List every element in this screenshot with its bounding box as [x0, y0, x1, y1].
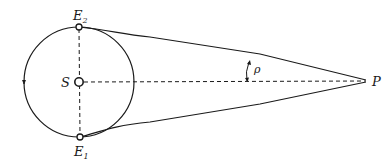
parallax-diagram: S E2 E1 P ρ — [0, 0, 392, 166]
point-p-label: P — [371, 74, 381, 89]
earth-top-point — [76, 24, 82, 30]
e1-p-line — [80, 82, 366, 137]
earth-top-label: E2 — [72, 8, 88, 25]
angle-arrow-top-icon — [247, 60, 251, 65]
earth-bottom-label: E1 — [73, 144, 89, 161]
orbit-direction-arrow-icon — [23, 80, 26, 84]
s-p-dashed-line — [84, 81, 366, 82]
angle-rho-label: ρ — [253, 63, 261, 76]
earth-bottom-point — [77, 134, 83, 140]
sun-label: S — [61, 75, 70, 90]
sun-point — [75, 78, 83, 86]
e2-p-line — [79, 27, 366, 80]
